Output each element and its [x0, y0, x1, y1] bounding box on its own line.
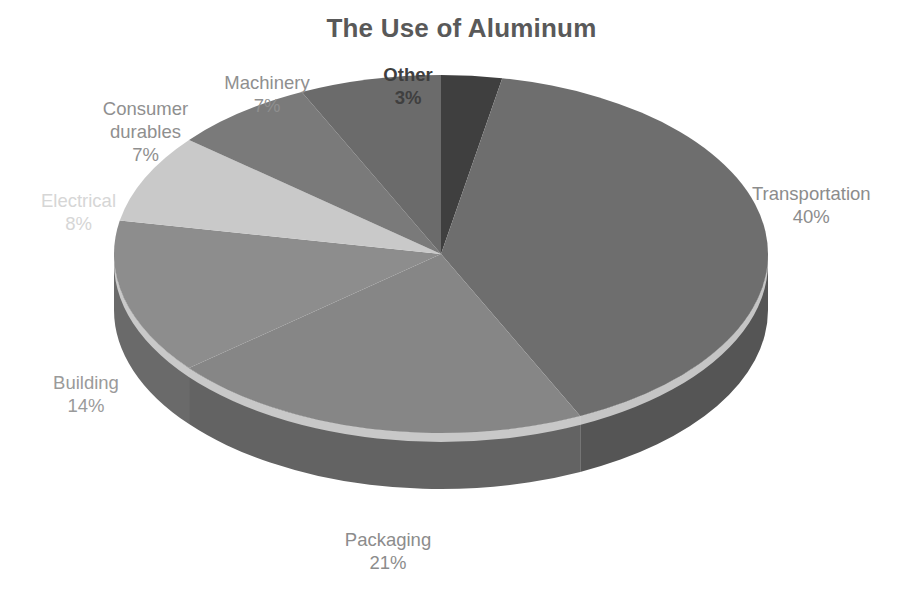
slice-label-value: 21%: [303, 552, 473, 575]
slice-label-name: Electrical: [11, 190, 146, 213]
slice-label-value: 3%: [353, 87, 463, 110]
slice-label-value: 8%: [11, 213, 146, 236]
slice-label-name-line2: durables: [73, 121, 218, 144]
slice-label-electrical: Electrical 8%: [11, 190, 146, 236]
slice-label-value: 14%: [21, 395, 151, 418]
slice-label-machinery: Machinery 7%: [202, 72, 332, 118]
slice-label-value: 40%: [752, 206, 871, 229]
slice-label-name: Other: [353, 64, 463, 87]
slice-label-name: Machinery: [202, 72, 332, 95]
slice-label-transportation: Transportation 40%: [752, 183, 871, 229]
slice-label-other: Other 3%: [353, 64, 463, 110]
slice-label-value: 7%: [202, 95, 332, 118]
slice-label-consumer-durables: Consumer durables 7%: [73, 98, 218, 167]
slice-label-name: Building: [21, 372, 151, 395]
pie-chart-figure: The Use of Aluminum Transportation 40% P…: [0, 0, 923, 608]
slice-label-building: Building 14%: [21, 372, 151, 418]
slice-label-name: Transportation: [752, 183, 871, 206]
slice-label-value: 7%: [73, 144, 218, 167]
slice-label-name: Packaging: [303, 529, 473, 552]
slice-label-name-line1: Consumer: [73, 98, 218, 121]
slice-label-packaging: Packaging 21%: [303, 529, 473, 575]
